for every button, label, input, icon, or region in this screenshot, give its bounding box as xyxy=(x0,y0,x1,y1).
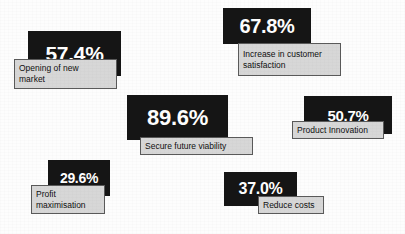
value-text-reduce-costs: 37.0% xyxy=(239,181,283,197)
label-text-profit-maximisation: Profit maximisation xyxy=(32,189,90,211)
label-text-reduce-costs: Reduce costs xyxy=(259,200,319,211)
label-text-secure-future-viability: Secure future viability xyxy=(141,141,230,152)
label-box-secure-future-viability: Secure future viability xyxy=(140,137,253,155)
label-box-product-innovation: Product Innovation xyxy=(292,121,384,139)
label-text-increase-in-customer-satisfaction: Increase in customer satisfaction xyxy=(239,49,326,71)
value-box-increase-in-customer-satisfaction: 67.8% xyxy=(223,8,311,44)
label-box-opening-of-new-market: Opening of new market xyxy=(14,59,117,89)
label-box-reduce-costs: Reduce costs xyxy=(258,196,324,214)
value-text-profit-maximisation: 29.6% xyxy=(60,171,98,185)
value-text-secure-future-viability: 89.6% xyxy=(147,107,208,129)
value-box-secure-future-viability: 89.6% xyxy=(127,95,228,140)
label-box-profit-maximisation: Profit maximisation xyxy=(31,185,105,214)
label-text-product-innovation: Product Innovation xyxy=(293,125,372,136)
label-box-increase-in-customer-satisfaction: Increase in customer satisfaction xyxy=(238,43,341,76)
label-text-opening-of-new-market: Opening of new market xyxy=(15,63,83,85)
infographic-canvas: 57.4% Opening of new market 67.8% Increa… xyxy=(0,0,405,234)
value-text-increase-in-customer-satisfaction: 67.8% xyxy=(239,16,294,36)
